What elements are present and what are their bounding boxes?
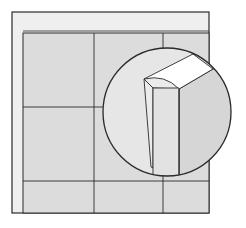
- illustration-canvas: [0, 0, 246, 228]
- tile-edge-detail-drawing: [0, 0, 246, 228]
- trim-front-face: [153, 88, 179, 188]
